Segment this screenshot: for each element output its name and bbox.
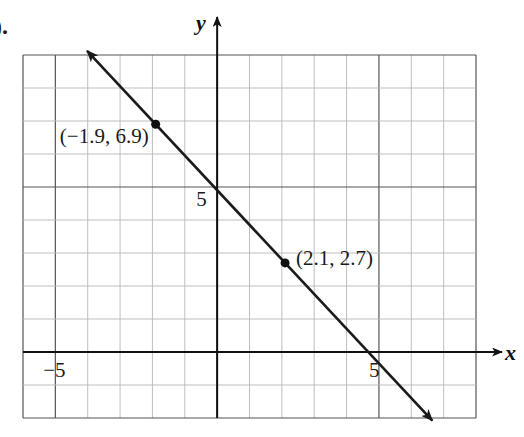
axes (23, 17, 502, 418)
data-point (281, 258, 290, 267)
point-label: (−1.9, 6.9) (60, 124, 149, 148)
figure-label: ). (0, 13, 8, 39)
line-graph: ). −555 (−1.9, 6.9)(2.1, 2.7) y x (0, 0, 524, 437)
y-tick-label: 5 (196, 187, 207, 211)
point-label: (2.1, 2.7) (296, 246, 373, 270)
grid (23, 55, 476, 418)
x-axis-label: x (504, 340, 516, 365)
data-series (87, 51, 432, 421)
x-tick-label: −5 (43, 358, 65, 382)
data-point (151, 120, 160, 129)
y-axis-label: y (193, 10, 206, 35)
data-line (87, 51, 432, 421)
